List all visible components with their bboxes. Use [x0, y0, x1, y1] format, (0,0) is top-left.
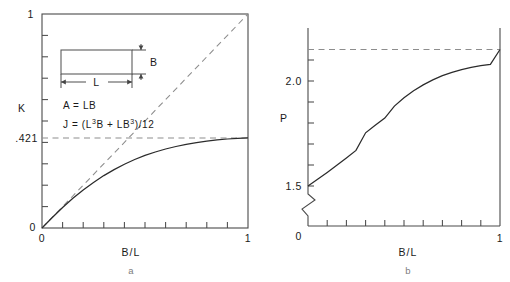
panel-a-curve-k — [42, 138, 248, 228]
inset-dimension-b — [132, 44, 146, 80]
inset-formula-j-suffix: )/12 — [135, 119, 155, 130]
panel-a-x-tick-label-zero: 0 — [39, 232, 45, 244]
inset-formula-j-mid: B + LB — [96, 119, 130, 130]
panel-b-curve-p — [308, 50, 500, 187]
panel-b-y-tick-label-1-5: 1.5 — [286, 180, 302, 192]
panel-b: 1.5 2.0 0 P 1 B/L b — [258, 0, 510, 282]
panel-b-y-tick-label-2-0: 2.0 — [286, 75, 302, 87]
panel-b-svg: 1.5 2.0 0 P 1 B/L b — [258, 0, 510, 282]
panel-a-y-tick-label-top: 1 — [28, 8, 34, 20]
panel-b-caption: b — [405, 265, 410, 276]
panel-a-x-tick-label-one: 1 — [245, 232, 251, 244]
panel-b-y-tick-label-zero: 0 — [296, 230, 302, 242]
panel-a-y-axis-label: K — [18, 102, 26, 114]
panel-b-y-axis-label: P — [280, 112, 288, 124]
panel-a-y-ticks — [42, 35, 48, 206]
panel-b-x-axis-label: B/L — [399, 246, 418, 258]
panel-a: 1 .421 0 K 0 1 B/L a — [0, 0, 262, 282]
panel-a-y-tick-label-zero: 0 — [30, 221, 36, 233]
panel-b-axis-break-zigzag — [302, 186, 315, 226]
panel-a-y-tick-label-asymptote: .421 — [15, 132, 38, 144]
panel-a-x-ticks — [63, 222, 228, 228]
panel-b-y-ticks — [308, 60, 314, 186]
figure-container: 1 .421 0 K 0 1 B/L a — [0, 0, 510, 282]
panel-a-x-axis-label: B/L — [122, 246, 141, 258]
panel-a-svg: 1 .421 0 K 0 1 B/L a — [0, 0, 262, 282]
panel-b-axes — [302, 28, 500, 226]
inset-formula-j: J = (L3B + LB3)/12 — [63, 118, 154, 130]
inset-label-l: L — [93, 76, 99, 88]
panel-b-x-tick-label-one: 1 — [497, 232, 503, 244]
inset-cross-section-rect — [61, 50, 132, 74]
inset-label-b: B — [150, 56, 158, 68]
panel-a-inset-diagram: B L A = LB J = (L3B + LB3)/12 — [61, 44, 158, 130]
panel-a-caption: a — [128, 265, 134, 276]
panel-b-x-ticks — [327, 220, 481, 226]
inset-formula-j-prefix: J = (L — [63, 119, 92, 130]
inset-formula-area: A = LB — [63, 100, 96, 111]
